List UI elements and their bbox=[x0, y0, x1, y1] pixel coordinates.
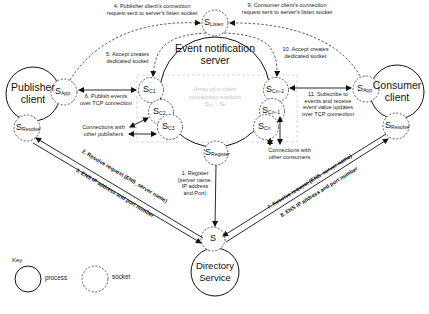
socket-cn1-label: SCn−1 bbox=[262, 105, 280, 115]
key-process-circle bbox=[15, 266, 41, 292]
server-label: Event notificationserver bbox=[160, 42, 270, 66]
socket-con-resolve-label: SResolve bbox=[385, 120, 409, 130]
socket-c2-label: SC2 bbox=[153, 106, 165, 116]
step-1-label: 1. Register(server name,IP addressand Po… bbox=[175, 170, 215, 196]
socket-cn-label: SCn bbox=[258, 121, 270, 131]
socket-listen-label: SListen bbox=[204, 17, 223, 27]
socket-c1-label: SC1 bbox=[143, 84, 155, 94]
diagram-canvas: Publisherclient Consumerclient Event not… bbox=[0, 0, 429, 314]
step-9-label: 9. Consumer client's connectionrequest s… bbox=[232, 2, 342, 15]
step-5-label: 5. Accept createsdedicated socket bbox=[100, 51, 155, 64]
publisher-client-label: Publisherclient bbox=[6, 81, 60, 105]
consumer-connections-label: Connections withother consumers bbox=[262, 147, 317, 160]
socket-pub-resolve-label: SResolve bbox=[16, 122, 40, 132]
step-10-label: 10. Accept createsdedicated socket bbox=[278, 46, 333, 59]
key-process-label: process bbox=[45, 275, 67, 282]
consumer-client-label: Consumerclient bbox=[370, 79, 424, 103]
socket-con-app-label: SApp bbox=[357, 83, 372, 93]
socket-dir-label: S bbox=[210, 233, 216, 243]
step-4-label: 4. Publisher client's connectionrequest … bbox=[102, 3, 202, 16]
socket-array-label: Array of n clientconnection socketsS₁₁…S… bbox=[180, 85, 250, 108]
socket-c3-label: SC3 bbox=[162, 121, 174, 131]
key-title: Key bbox=[12, 257, 22, 264]
publisher-connections-label: Connections withother publishers bbox=[76, 124, 131, 137]
step-6-label: 6. Publish eventsover TCP connection bbox=[76, 93, 136, 106]
step-11-label: 11. Subscribe toevents and receiveevent … bbox=[298, 91, 358, 117]
socket-register-label: SRegister bbox=[205, 147, 230, 157]
socket-pub-app-label: SApp bbox=[55, 86, 70, 96]
directory-service-label: DirectoryService bbox=[191, 260, 239, 284]
key-socket-circle bbox=[82, 266, 108, 292]
socket-cn2-label: SCn−2 bbox=[266, 84, 284, 94]
key-socket-label: socket bbox=[112, 274, 130, 281]
